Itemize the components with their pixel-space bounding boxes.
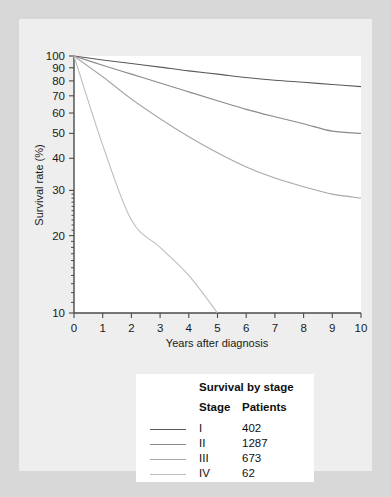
legend-header-patients: Patients <box>242 401 287 413</box>
legend-patients-value: 1287 <box>242 437 268 449</box>
legend-line-swatch <box>150 459 186 460</box>
legend-rows: I402II1287III673IV62 <box>136 422 314 482</box>
legend-header-stage: Stage <box>199 401 230 413</box>
x-tick-label: 8 <box>300 322 306 334</box>
survival-curve-plot: 100908070605040302010 012345678910 Years… <box>19 19 372 359</box>
x-tick-label: 4 <box>186 322 193 334</box>
y-tick-label: 60 <box>52 107 65 119</box>
figure-panel: 100908070605040302010 012345678910 Years… <box>19 19 372 471</box>
x-tick-label: 3 <box>157 322 163 334</box>
legend-row: IV62 <box>136 467 314 482</box>
x-tick-label: 9 <box>329 322 335 334</box>
y-tick-label: 90 <box>52 62 65 74</box>
x-tick-label: 5 <box>214 322 220 334</box>
y-tick-label: 40 <box>52 152 65 164</box>
legend-title: Survival by stage <box>199 381 294 393</box>
legend-row: III673 <box>136 452 314 467</box>
x-axis-ticks: 012345678910 <box>71 313 368 334</box>
legend-stage-label: III <box>199 452 209 464</box>
legend-line-swatch <box>150 444 186 445</box>
y-axis-ticks: 100908070605040302010 <box>46 50 74 319</box>
y-tick-label: 50 <box>52 127 65 139</box>
legend-box: Survival by stage Stage Patients I402II1… <box>136 374 314 482</box>
y-tick-label: 70 <box>52 90 65 102</box>
legend-stage-label: II <box>199 437 205 449</box>
legend-patients-value: 673 <box>242 452 261 464</box>
y-tick-label: 100 <box>46 50 65 62</box>
legend-row: II1287 <box>136 437 314 452</box>
x-tick-label: 10 <box>355 322 368 334</box>
x-axis-title: Years after diagnosis <box>166 337 269 349</box>
y-tick-label: 80 <box>52 75 65 87</box>
x-tick-label: 6 <box>243 322 249 334</box>
y-tick-label: 10 <box>52 307 65 319</box>
x-tick-label: 2 <box>128 322 134 334</box>
legend-patients-value: 402 <box>242 422 261 434</box>
x-tick-label: 7 <box>272 322 278 334</box>
y-axis-title: Survival rate (%) <box>33 144 45 225</box>
legend-row: I402 <box>136 422 314 437</box>
y-tick-label: 30 <box>52 184 65 196</box>
legend-line-swatch <box>150 429 186 430</box>
legend-line-swatch <box>150 474 186 475</box>
x-tick-label: 0 <box>71 322 77 334</box>
x-tick-label: 1 <box>99 322 105 334</box>
legend-stage-label: IV <box>199 467 210 479</box>
legend-patients-value: 62 <box>242 467 255 479</box>
y-tick-label: 20 <box>52 230 65 242</box>
chart-area: 100908070605040302010 012345678910 Years… <box>19 19 372 359</box>
legend-stage-label: I <box>199 422 202 434</box>
